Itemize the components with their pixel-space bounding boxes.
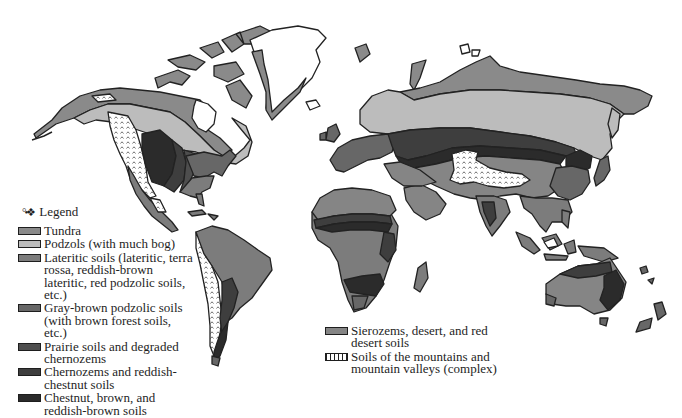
iceland — [306, 100, 320, 110]
legend-item-prairie: Prairie soils and degraded chernozems — [18, 341, 193, 366]
tasmania — [600, 318, 608, 326]
chernozems-swatch-icon — [18, 368, 41, 376]
prairie-swatch-icon — [18, 343, 41, 351]
china-gray-brown — [550, 166, 590, 200]
legend-item-chernozems: Chernozems and reddish-chestnut soils — [18, 366, 193, 391]
legend-label: Lateritic soils (lateritic, terra rossa,… — [44, 252, 193, 302]
legend-label: Chestnut, brown, and reddish-brown soils — [44, 392, 193, 417]
oceania — [516, 210, 666, 332]
gray-brown-swatch-icon — [18, 304, 41, 312]
new-zealand — [636, 302, 666, 332]
legend-label: Sierozems, desert, and red desert soils — [351, 325, 505, 350]
legend-list-secondary: Sierozems, desert, and red desert soils … — [325, 325, 505, 377]
sierozems-swatch-icon — [325, 327, 348, 335]
legend-item-gray-brown-podzolic: Gray-brown podzolic soils (with brown fo… — [18, 302, 193, 339]
tundra-swatch-icon — [18, 227, 41, 235]
legend-item-mountains: Soils of the mountains and mountain vall… — [325, 351, 505, 376]
legend-islands-icon: °•❖ — [22, 206, 34, 219]
lateritic-swatch-icon — [18, 254, 41, 262]
arabia — [404, 184, 446, 220]
legend-list: Tundra Podzols (with much bog) Lateritic… — [18, 225, 193, 418]
sa-tip — [212, 356, 220, 366]
legend-item-chestnut: Chestnut, brown, and reddish-brown soils — [18, 392, 193, 417]
legend-title: °•❖ Legend — [22, 204, 78, 220]
legend-label: Soils of the mountains and mountain vall… — [351, 351, 505, 376]
novaya-zemlya — [410, 60, 426, 90]
legend-label: Podzols (with much bog) — [44, 238, 175, 250]
north-islands — [460, 44, 480, 56]
legend-item-lateritic: Lateritic soils (lateritic, terra rossa,… — [18, 252, 193, 302]
legend-label: Gray-brown podzolic soils (with brown fo… — [44, 302, 193, 339]
japan — [594, 156, 610, 186]
legend-item-sierozems: Sierozems, desert, and red desert soils — [325, 325, 505, 350]
north-america — [32, 26, 326, 232]
legend-label: Prairie soils and degraded chernozems — [44, 341, 193, 366]
indonesia — [516, 232, 618, 262]
pacific-islands — [640, 266, 654, 284]
chestnut-swatch-icon — [18, 394, 41, 402]
legend-label: Chernozems and reddish-chestnut soils — [44, 366, 193, 391]
british-isles — [320, 124, 340, 142]
svalbard — [355, 44, 370, 62]
philippines — [562, 210, 570, 228]
caribbean — [188, 210, 218, 220]
podzols-swatch-icon — [18, 240, 41, 248]
legend-title-text: Legend — [39, 204, 78, 220]
madagascar — [414, 262, 428, 292]
florida — [196, 194, 204, 206]
legend-item-podzols: Podzols (with much bog) — [18, 238, 193, 250]
na-gray-brown — [186, 150, 236, 178]
south-america — [196, 226, 272, 366]
mountains-pattern-swatch-icon — [325, 353, 348, 361]
